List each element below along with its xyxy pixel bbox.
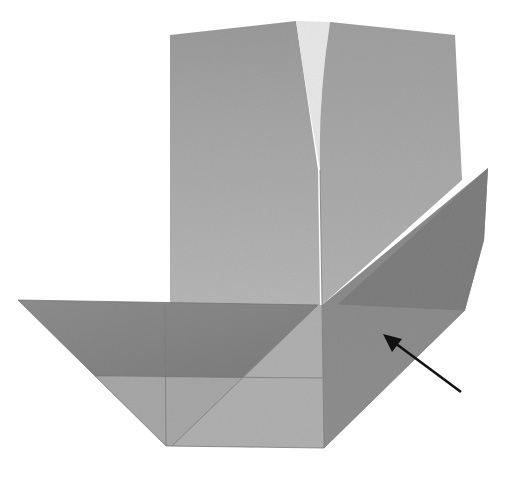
origami-illustration <box>0 0 513 478</box>
top-left-panel <box>170 21 320 305</box>
origami-figure: Origami folding step photograph with arr… <box>0 0 513 478</box>
paper-model <box>18 21 488 448</box>
